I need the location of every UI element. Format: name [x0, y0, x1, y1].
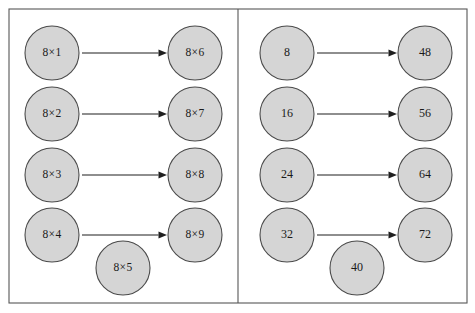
- node-circle-source[interactable]: 32: [260, 208, 314, 262]
- node-label: 8×7: [186, 107, 205, 119]
- matching-diagram: 8×18×28×38×48×68×78×88×98×58162432485664…: [0, 0, 475, 313]
- node-label: 64: [419, 167, 431, 181]
- node-label: 8: [284, 45, 290, 59]
- node-circle-target[interactable]: 8×8: [168, 148, 222, 202]
- node-circle-target[interactable]: 8×7: [168, 87, 222, 141]
- arrow-head-icon: [389, 110, 398, 117]
- node-circle-target[interactable]: 8×9: [168, 208, 222, 262]
- arrow-head-icon: [159, 49, 168, 56]
- arrow-head-icon: [389, 171, 398, 178]
- arrow-head-icon: [159, 171, 168, 178]
- link-arrow: [317, 231, 397, 238]
- link-arrow: [317, 110, 397, 117]
- link-arrow: [82, 49, 167, 56]
- link-arrow: [82, 171, 167, 178]
- node-circle-target[interactable]: 8×6: [168, 26, 222, 80]
- node-label: 16: [281, 106, 293, 120]
- arrow-head-icon: [159, 231, 168, 238]
- arrow-head-icon: [159, 110, 168, 117]
- node-circle-source[interactable]: 24: [260, 148, 314, 202]
- node-label: 8×4: [43, 228, 62, 240]
- node-label: 8×2: [43, 107, 62, 119]
- node-circle-target[interactable]: 56: [398, 87, 452, 141]
- node-circle-source[interactable]: 8×4: [25, 208, 79, 262]
- node-circle-unmatched[interactable]: 8×5: [96, 241, 150, 295]
- node-label: 8×6: [186, 46, 205, 58]
- link-arrow: [82, 231, 167, 238]
- node-circle-source[interactable]: 8×3: [25, 148, 79, 202]
- diagram-stage: 8×18×28×38×48×68×78×88×98×58162432485664…: [0, 0, 475, 313]
- node-circle-unmatched[interactable]: 40: [330, 241, 384, 295]
- arrow-head-icon: [389, 231, 398, 238]
- node-circle-target[interactable]: 64: [398, 148, 452, 202]
- node-circle-target[interactable]: 72: [398, 208, 452, 262]
- node-circle-source[interactable]: 8×1: [25, 26, 79, 80]
- node-circle-source[interactable]: 8×2: [25, 87, 79, 141]
- link-arrow: [317, 49, 397, 56]
- links-layer: [82, 49, 397, 238]
- node-circle-source[interactable]: 8: [260, 26, 314, 80]
- node-label: 8×9: [186, 228, 205, 240]
- node-label: 8×1: [43, 46, 62, 58]
- node-label: 48: [419, 45, 431, 59]
- node-label: 24: [281, 167, 293, 181]
- node-circle-target[interactable]: 48: [398, 26, 452, 80]
- node-label: 32: [281, 227, 293, 241]
- node-circle-source[interactable]: 16: [260, 87, 314, 141]
- node-label: 72: [419, 227, 431, 241]
- node-label: 8×5: [114, 261, 133, 273]
- node-label: 8×8: [186, 168, 205, 180]
- arrow-head-icon: [389, 49, 398, 56]
- node-label: 40: [351, 260, 363, 274]
- link-arrow: [82, 110, 167, 117]
- node-label: 56: [419, 106, 431, 120]
- node-label: 8×3: [43, 168, 62, 180]
- link-arrow: [317, 171, 397, 178]
